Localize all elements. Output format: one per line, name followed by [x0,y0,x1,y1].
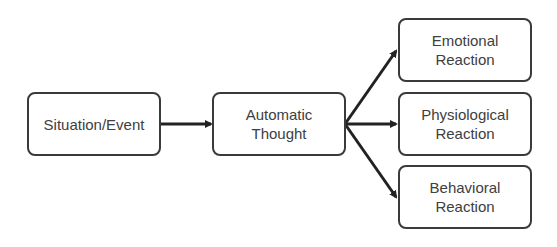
node-label-line1: Emotional [432,31,499,50]
node-label-line1: Physiological [421,105,509,124]
node-emotional-reaction: Emotional Reaction [398,18,532,82]
node-label-line1: Automatic [246,105,313,124]
arrow-thought-to-emotional [345,51,396,124]
node-label-line2: Reaction [421,124,509,143]
arrow-thought-to-behavioral [345,124,396,197]
node-label-line2: Thought [246,124,313,143]
node-physiological-reaction: Physiological Reaction [398,92,532,156]
node-label: Situation/Event [44,115,145,134]
node-label-line2: Reaction [430,197,501,216]
node-situation-event: Situation/Event [27,92,161,156]
node-label-line1: Behavioral [430,178,501,197]
node-behavioral-reaction: Behavioral Reaction [398,165,532,229]
node-automatic-thought: Automatic Thought [212,92,346,156]
node-label-line2: Reaction [432,50,499,69]
